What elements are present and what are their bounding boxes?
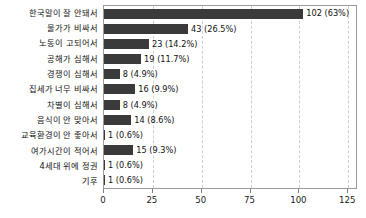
- bar: [104, 175, 105, 185]
- plot-area: 102 (63%)43 (26.5%)23 (14.2%)19 (11.7%)8…: [103, 5, 357, 189]
- x-tick-label: 25: [146, 196, 157, 205]
- bar-value-label: 19 (11.7%): [144, 55, 189, 63]
- bar: [104, 24, 188, 34]
- bar: [104, 145, 133, 155]
- bar-value-label: 1 (0.6%): [108, 176, 143, 184]
- axis-tick: [103, 189, 104, 193]
- y-axis-label: 한국말이 잘 안돼서: [0, 5, 101, 20]
- axis-tick: [347, 189, 348, 193]
- axis-tick: [152, 189, 153, 193]
- y-axis-label: 공해가 심해서: [0, 51, 101, 66]
- bar: [104, 160, 105, 170]
- bar-value-label: 102 (63%): [306, 9, 349, 17]
- x-axis-ticks: [103, 189, 357, 195]
- y-axis-label: 노동이 고되어서: [0, 36, 101, 51]
- x-tick-label: 125: [339, 196, 355, 205]
- bar: [104, 54, 141, 64]
- bar-value-label: 1 (0.6%): [108, 131, 143, 139]
- axis-tick: [201, 189, 202, 193]
- y-axis-label: 교육환경이 안 좋아서: [0, 128, 101, 143]
- x-tick-label: 100: [290, 196, 306, 205]
- y-axis-category-labels: 한국말이 잘 안돼서물가가 비싸서노동이 고되어서공해가 심해서경쟁이 심해서집…: [0, 5, 101, 189]
- x-tick-label: 50: [195, 196, 206, 205]
- y-axis-label: 여가시간이 적어서: [0, 143, 101, 158]
- bar: [104, 130, 105, 140]
- bar: [104, 100, 120, 110]
- bar: [104, 9, 303, 19]
- x-tick-label: 0: [100, 196, 105, 205]
- bar-row: 23 (14.2%): [104, 36, 356, 51]
- y-axis-label: 경쟁이 심해서: [0, 66, 101, 81]
- bar-value-label: 8 (4.9%): [123, 70, 158, 78]
- bar-row: 43 (26.5%): [104, 21, 356, 36]
- bar-value-label: 8 (4.9%): [123, 101, 158, 109]
- bar: [104, 84, 135, 94]
- y-axis-label: 집세가 너무 비싸서: [0, 82, 101, 97]
- axis-tick: [250, 189, 251, 193]
- bar-value-label: 1 (0.6%): [108, 161, 143, 169]
- bar-row: 1 (0.6%): [104, 173, 356, 188]
- bar-row: 1 (0.6%): [104, 127, 356, 142]
- bar-value-label: 14 (8.6%): [134, 116, 174, 124]
- bar-series: 102 (63%)43 (26.5%)23 (14.2%)19 (11.7%)8…: [104, 6, 356, 188]
- bar-row: 15 (9.3%): [104, 143, 356, 158]
- y-axis-label: 물가가 비싸서: [0, 20, 101, 35]
- bar-row: 14 (8.6%): [104, 112, 356, 127]
- bar-value-label: 23 (14.2%): [152, 40, 197, 48]
- y-axis-label: 음식이 안 맞아서: [0, 112, 101, 127]
- bar-value-label: 15 (9.3%): [136, 146, 176, 154]
- horizontal-bar-chart: 한국말이 잘 안돼서물가가 비싸서노동이 고되어서공해가 심해서경쟁이 심해서집…: [0, 0, 366, 218]
- bar-row: 16 (9.9%): [104, 82, 356, 97]
- bar-value-label: 43 (26.5%): [191, 25, 236, 33]
- y-axis-label: 4세대 위에 정권: [0, 158, 101, 173]
- bar-row: 102 (63%): [104, 6, 356, 21]
- bar-row: 1 (0.6%): [104, 158, 356, 173]
- bar: [104, 69, 120, 79]
- bar-row: 19 (11.7%): [104, 52, 356, 67]
- bar: [104, 39, 149, 49]
- y-axis-label: 기후: [0, 174, 101, 189]
- bar: [104, 115, 131, 125]
- bar-value-label: 16 (9.9%): [138, 85, 178, 93]
- bar-row: 8 (4.9%): [104, 67, 356, 82]
- bar-row: 8 (4.9%): [104, 97, 356, 112]
- y-axis-label: 차별이 심해서: [0, 97, 101, 112]
- axis-tick: [298, 189, 299, 193]
- x-tick-label: 75: [244, 196, 255, 205]
- x-axis-tick-labels: 0255075100125: [103, 196, 357, 210]
